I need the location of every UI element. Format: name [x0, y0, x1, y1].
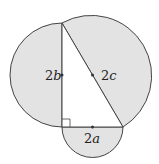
label-2a: 2a [84, 131, 100, 146]
label-2c: 2c [101, 68, 117, 83]
label-2b: 2b [45, 68, 62, 83]
semicircles-diagram: 2b 2c 2a [0, 0, 159, 164]
midpoint-c [91, 74, 94, 77]
midpoint-a [91, 126, 94, 129]
